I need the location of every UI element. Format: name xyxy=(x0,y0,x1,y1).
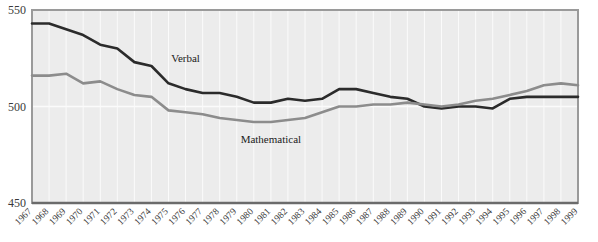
x-tick-label-1968: 1968 xyxy=(30,206,51,227)
x-tick-label-1983: 1983 xyxy=(286,206,307,227)
x-tick-label-1975: 1975 xyxy=(149,206,170,227)
x-tick-label-1976: 1976 xyxy=(166,206,187,227)
x-tick-label-1972: 1972 xyxy=(98,206,119,227)
series-label-mathematical: Mathematical xyxy=(241,133,301,145)
x-tick-label-1991: 1991 xyxy=(422,206,443,227)
x-tick-label-1979: 1979 xyxy=(218,206,239,227)
chart-canvas: 4505005501967196819691970197119721973197… xyxy=(0,0,598,242)
x-tick-label-1977: 1977 xyxy=(184,206,205,227)
x-tick-label-1996: 1996 xyxy=(508,206,529,227)
x-tick-label-1987: 1987 xyxy=(354,206,375,227)
x-tick-label-1969: 1969 xyxy=(47,206,68,227)
y-tick-label-500: 500 xyxy=(8,100,26,114)
y-tick-label-450: 450 xyxy=(8,196,26,210)
x-tick-label-1998: 1998 xyxy=(542,206,563,227)
y-axis-tick-labels: 450500550 xyxy=(8,3,26,210)
x-tick-label-1973: 1973 xyxy=(115,206,136,227)
x-tick-label-1978: 1978 xyxy=(201,206,222,227)
x-tick-label-1970: 1970 xyxy=(64,206,85,227)
x-tick-label-1995: 1995 xyxy=(491,206,512,227)
x-tick-label-1986: 1986 xyxy=(337,206,358,227)
x-tick-label-1989: 1989 xyxy=(388,206,409,227)
x-tick-label-1990: 1990 xyxy=(405,206,426,227)
x-tick-label-1971: 1971 xyxy=(81,206,102,227)
x-tick-label-1981: 1981 xyxy=(252,206,273,227)
x-axis-tick-labels: 1967196819691970197119721973197419751976… xyxy=(13,206,580,227)
x-tick-label-1988: 1988 xyxy=(371,206,392,227)
x-tick-label-1982: 1982 xyxy=(269,206,290,227)
x-tick-label-1984: 1984 xyxy=(303,206,324,227)
y-tick-label-550: 550 xyxy=(8,3,26,17)
series-label-verbal: Verbal xyxy=(171,52,200,64)
x-tick-label-1997: 1997 xyxy=(525,206,546,227)
x-tick-label-1999: 1999 xyxy=(559,206,580,227)
x-tick-label-1985: 1985 xyxy=(320,206,341,227)
x-tick-label-1992: 1992 xyxy=(439,206,460,227)
x-tick-label-1974: 1974 xyxy=(132,206,153,227)
x-tick-label-1993: 1993 xyxy=(457,206,478,227)
x-tick-label-1980: 1980 xyxy=(235,206,256,227)
sat-score-trend-chart: 4505005501967196819691970197119721973197… xyxy=(0,0,598,242)
x-tick-label-1994: 1994 xyxy=(474,206,495,227)
